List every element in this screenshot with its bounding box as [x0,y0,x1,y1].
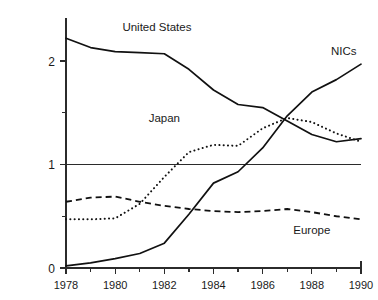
x-tick-label: 1982 [152,279,176,291]
y-tick-label: 2 [48,55,55,69]
series-label-united-states: United States [122,21,191,33]
series-label-japan: Japan [149,112,180,124]
x-tick-label: 1986 [250,279,274,291]
series-label-europe: Europe [293,224,330,236]
y-axis-tick-labels: 012 [48,55,55,276]
series-line-europe [66,197,361,220]
x-tick-label: 1990 [349,279,373,291]
x-tick-label: 1980 [103,279,127,291]
x-tick-label: 1988 [300,279,324,291]
y-tick-label: 1 [48,158,55,172]
chart-container: 1978198019821984198619881990 012 United … [0,0,378,300]
x-axis-tick-labels: 1978198019821984198619881990 [54,279,373,291]
series-line-japan [66,118,361,219]
series-label-nics: NICs [331,45,357,57]
x-tick-label: 1984 [201,279,225,291]
y-tick-label: 0 [48,262,55,276]
line-chart: 1978198019821984198619881990 012 United … [0,0,378,300]
x-tick-label: 1978 [54,279,78,291]
